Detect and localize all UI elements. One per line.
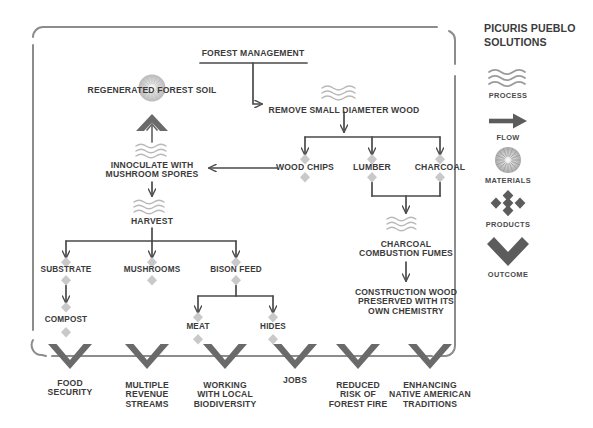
outcome-label-jobs[interactable]: JOBS xyxy=(283,376,307,385)
outcome-label-reduced-risk-of-forest-fire[interactable]: REDUCED RISK OF FOREST FIRE xyxy=(329,381,388,409)
legend-waves-icon xyxy=(489,70,525,86)
node-harvest[interactable]: HARVEST xyxy=(131,217,173,226)
outcome-label-food-security[interactable]: FOOD SECURITY xyxy=(48,379,93,398)
diagram-vector-layer xyxy=(0,0,593,428)
connector-remove-wood-split xyxy=(305,112,440,155)
node-compost[interactable]: COMPOST xyxy=(45,316,88,325)
legend-item-materials: MATERIALS xyxy=(485,175,531,185)
node-innoculate-with-mushroom-spores[interactable]: INNOCULATE WITH MUSHROOM SPORES xyxy=(106,161,199,180)
node-construction-wood[interactable]: CONSTRUCTION WOOD PRESERVED WITH ITS OWN… xyxy=(355,288,457,316)
legend-label-materials: MATERIALS xyxy=(485,176,531,185)
waves-icon-remove-wood-process xyxy=(322,86,355,100)
legend-label-outcome: OUTCOME xyxy=(488,270,528,279)
forest-management-to-remove-arrow xyxy=(253,63,262,104)
legend-arrow-right-icon xyxy=(489,114,527,129)
outcome-label-enhancing-native-american-traditions[interactable]: ENHANCING NATIVE AMERICAN TRADITIONS xyxy=(389,381,471,409)
node-forest-management[interactable]: FOREST MANAGEMENT xyxy=(202,49,305,58)
legend-item-process: PROCESS xyxy=(489,90,528,100)
diamond-icon xyxy=(61,302,71,312)
legend-chevron-down-icon xyxy=(487,237,529,266)
node-meat[interactable]: MEAT xyxy=(186,323,209,332)
diamond-icon xyxy=(300,172,310,182)
diamond-icon xyxy=(193,334,203,344)
legend-item-flow: FLOW xyxy=(496,132,519,142)
diagram-canvas: FOREST MANAGEMENT REGENERATED FOREST SOI… xyxy=(0,0,593,428)
diamond-icon xyxy=(61,327,71,337)
waves-icon-harvest-process xyxy=(134,200,164,214)
connector-harvest-split xyxy=(66,228,236,258)
node-hides[interactable]: HIDES xyxy=(260,323,286,332)
diamond-icon xyxy=(367,172,377,182)
node-remove-small-diameter-wood[interactable]: REMOVE SMALL DIAMETER WOOD xyxy=(269,106,420,115)
outcome-label-multiple-revenue-streams[interactable]: MULTIPLE REVENUE STREAMS xyxy=(125,381,169,409)
node-charcoal-combustion-fumes[interactable]: CHARCOAL COMBUSTION FUMES xyxy=(359,240,453,259)
node-wood-chips[interactable]: WOOD CHIPS xyxy=(276,163,334,172)
node-charcoal[interactable]: CHARCOAL xyxy=(415,163,466,172)
node-substrate[interactable]: SUBSTRATE xyxy=(41,266,92,275)
legend-title: PICURIS PUEBLO SOLUTIONS xyxy=(484,22,576,49)
node-lumber[interactable]: LUMBER xyxy=(353,163,391,172)
connector-lumber-charcoal-merge xyxy=(372,182,440,213)
legend-label-flow: FLOW xyxy=(496,133,519,142)
connector-forest-management xyxy=(200,63,307,104)
node-regenerated-forest-soil[interactable]: REGENERATED FOREST SOIL xyxy=(88,86,217,95)
legend-label-products: PRODUCTS xyxy=(486,220,530,229)
legend-label-process: PROCESS xyxy=(489,91,528,100)
diamond-icon xyxy=(231,275,241,285)
waves-icon-fumes-process xyxy=(387,217,416,230)
diamond-icon xyxy=(435,172,445,182)
node-bison-feed[interactable]: BISON FEED xyxy=(210,266,262,275)
waves-icon-soil-process xyxy=(136,144,166,158)
legend-item-outcome: OUTCOME xyxy=(488,269,528,279)
diamond-icon xyxy=(147,275,157,285)
arrow-up-to-soil xyxy=(147,124,157,142)
node-mushrooms[interactable]: MUSHROOMS xyxy=(124,266,181,275)
legend-diamond-cluster-icon xyxy=(491,190,526,216)
outcome-label-working-with-local-biodiversity[interactable]: WORKING WITH LOCAL BIODIVERSITY xyxy=(194,381,257,409)
legend-item-products: PRODUCTS xyxy=(486,219,530,229)
connector-bisonfeed-split xyxy=(198,285,273,313)
diamond-icon xyxy=(268,334,278,344)
diamond-icon xyxy=(61,275,71,285)
